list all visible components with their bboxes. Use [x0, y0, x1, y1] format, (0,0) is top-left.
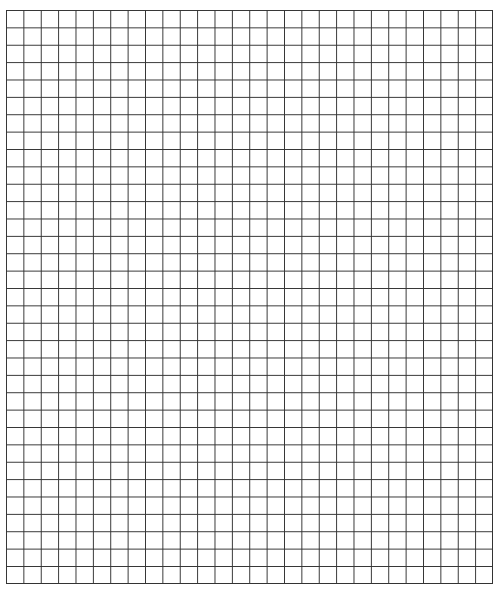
graph-paper-grid: [6, 10, 493, 584]
